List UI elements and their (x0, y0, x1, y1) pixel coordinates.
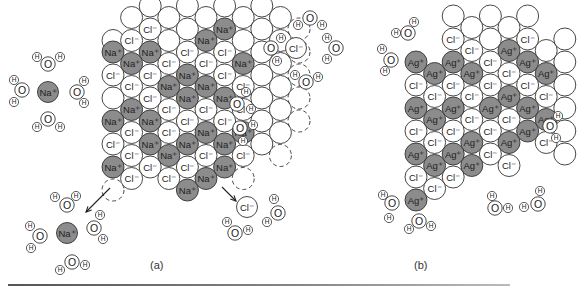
cation: Na⁺ (195, 76, 217, 98)
svg-text:Ag⁺: Ag⁺ (426, 114, 443, 125)
svg-text:Cl⁻: Cl⁻ (162, 58, 176, 69)
svg-text:Ag⁺: Ag⁺ (501, 137, 518, 148)
lattice-site-empty (102, 87, 124, 109)
svg-text:O: O (274, 207, 282, 219)
lattice-site-empty (269, 122, 291, 144)
svg-text:H: H (394, 29, 399, 36)
anion: Cl⁻ (461, 109, 483, 131)
cation: Ag⁺ (405, 143, 427, 165)
svg-text:H: H (407, 225, 412, 232)
cation: Na⁺ (139, 133, 161, 155)
svg-text:Ag⁺: Ag⁺ (426, 160, 443, 171)
svg-text:Cl⁻: Cl⁻ (483, 80, 497, 91)
svg-text:Ag⁺: Ag⁺ (463, 68, 480, 79)
svg-text:Na⁺: Na⁺ (104, 47, 121, 58)
dissolution-arrow (222, 187, 236, 201)
svg-text:Na⁺: Na⁺ (197, 127, 214, 138)
lattice-site-empty (121, 7, 143, 29)
lattice-vacancy (288, 110, 310, 132)
svg-text:Cl⁻: Cl⁻ (502, 114, 516, 125)
cation: Na⁺ (176, 133, 198, 155)
water-molecule: HHO (9, 75, 29, 106)
svg-text:H: H (554, 134, 559, 141)
cation: Na⁺ (195, 168, 217, 190)
lattice-site-empty (517, 5, 539, 27)
hydrated-cation: Na⁺ (38, 82, 59, 103)
water-molecule: HHO (222, 217, 252, 240)
svg-text:Ag⁺: Ag⁺ (482, 103, 499, 114)
svg-text:Na⁺: Na⁺ (179, 185, 196, 196)
svg-text:Cl⁻: Cl⁻ (125, 81, 139, 92)
svg-text:O: O (546, 120, 554, 132)
svg-text:Cl⁻: Cl⁻ (180, 47, 194, 58)
svg-text:Cl⁻: Cl⁻ (125, 150, 139, 161)
svg-text:H: H (244, 88, 249, 95)
svg-text:H: H (429, 222, 434, 229)
anion: Cl⁻ (442, 120, 464, 142)
svg-text:H: H (12, 98, 17, 105)
cation: Na⁺ (158, 145, 180, 167)
svg-text:Na⁺: Na⁺ (58, 228, 75, 239)
svg-text:Na⁺: Na⁺ (216, 162, 233, 173)
cation: Na⁺ (139, 110, 161, 132)
svg-text:Na⁺: Na⁺ (142, 47, 159, 58)
anion: Cl⁻ (479, 74, 501, 96)
svg-text:Cl⁻: Cl⁻ (521, 80, 535, 91)
cation: Na⁺ (158, 76, 180, 98)
svg-text:H: H (275, 57, 280, 64)
svg-text:H: H (296, 21, 301, 28)
lattice-site-empty (554, 28, 576, 50)
water-molecule: HHO (262, 194, 285, 226)
svg-text:O: O (302, 76, 310, 88)
svg-text:O: O (491, 202, 499, 214)
svg-text:Cl⁻: Cl⁻ (483, 126, 497, 137)
svg-text:O: O (44, 58, 52, 70)
svg-text:Cl⁻: Cl⁻ (521, 34, 535, 45)
cation: Na⁺ (176, 179, 198, 201)
cation: Na⁺ (176, 64, 198, 86)
svg-text:Na⁺: Na⁺ (160, 81, 177, 92)
hydrated-anion: Cl⁻ (286, 38, 307, 59)
anion: Cl⁻ (102, 64, 124, 86)
svg-text:Ag⁺: Ag⁺ (463, 137, 480, 148)
svg-text:Cl⁻: Cl⁻ (125, 35, 139, 46)
svg-text:H: H (279, 34, 284, 41)
svg-text:H: H (249, 105, 254, 112)
svg-text:Cl⁻: Cl⁻ (483, 149, 497, 160)
dissolution-arrow (86, 188, 110, 212)
svg-text:Na⁺: Na⁺ (197, 173, 214, 184)
anion: Cl⁻ (121, 168, 143, 190)
svg-text:Na⁺: Na⁺ (39, 87, 56, 98)
svg-text:Cl⁻: Cl⁻ (240, 202, 254, 213)
anion: Cl⁻ (498, 63, 520, 85)
svg-text:H: H (316, 73, 321, 80)
cation: Ag⁺ (442, 51, 464, 73)
cation: Ag⁺ (424, 155, 446, 177)
anion: Cl⁻ (158, 99, 180, 121)
svg-text:H: H (325, 34, 330, 41)
anion: Cl⁻ (139, 87, 161, 109)
lattice-site-empty (479, 28, 501, 50)
svg-text:O: O (36, 230, 44, 242)
svg-text:Cl⁻: Cl⁻ (125, 127, 139, 138)
anion: Cl⁻ (121, 145, 143, 167)
svg-text:H: H (83, 261, 88, 268)
svg-text:Na⁺: Na⁺ (142, 139, 159, 150)
water-molecule: HHO (487, 191, 512, 215)
svg-text:Cl⁻: Cl⁻ (199, 104, 213, 115)
svg-text:Cl⁻: Cl⁻ (162, 173, 176, 184)
svg-text:Ag⁺: Ag⁺ (426, 68, 443, 79)
cation: Ag⁺ (498, 132, 520, 154)
cation: Ag⁺ (424, 109, 446, 131)
svg-text:H: H (82, 99, 87, 106)
anion: Cl⁻ (461, 86, 483, 108)
anion: Cl⁻ (479, 51, 501, 73)
anion: Cl⁻ (424, 132, 446, 154)
hydrated-anion: Cl⁻ (237, 197, 258, 218)
svg-text:Cl⁻: Cl⁻ (180, 116, 194, 127)
anion: Cl⁻ (158, 122, 180, 144)
anion: Cl⁻ (479, 120, 501, 142)
svg-text:Cl⁻: Cl⁻ (143, 93, 157, 104)
svg-text:Cl⁻: Cl⁻ (143, 162, 157, 173)
lattice-vacancy (288, 87, 310, 109)
